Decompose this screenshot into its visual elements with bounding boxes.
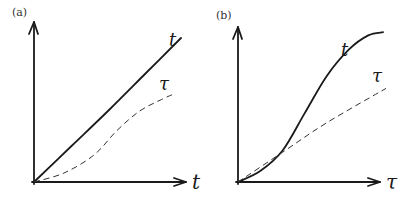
panel-label: (a): [12, 6, 27, 19]
figure: (a)ttτ (b)τtτ: [0, 0, 414, 199]
panel-label: (b): [216, 9, 232, 22]
series-label-tau: τ: [372, 65, 383, 86]
series-label-t: t: [341, 39, 349, 60]
x-axis-label: t: [192, 170, 201, 194]
series-line-tau: [34, 94, 175, 183]
series-label-t: t: [169, 29, 177, 50]
x-axis-label: τ: [386, 170, 398, 194]
series-label-tau: τ: [159, 73, 170, 94]
panel-b: (b)τtτ: [216, 9, 398, 194]
series-line-t: [238, 32, 383, 182]
panel-a: (a)ttτ: [12, 6, 201, 194]
series-line-tau: [238, 88, 386, 182]
series-line-t: [34, 38, 181, 182]
